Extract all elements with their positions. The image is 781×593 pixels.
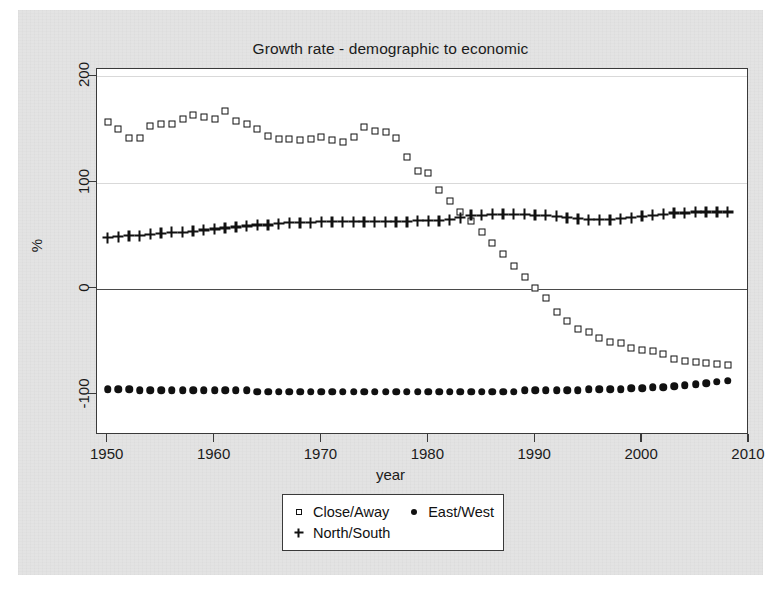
data-point: [243, 387, 251, 395]
data-point: [574, 387, 582, 395]
x-tick: [106, 434, 107, 442]
data-point: [660, 351, 667, 358]
plus-marker-icon: [292, 526, 305, 539]
data-point: [350, 133, 357, 140]
data-point: [508, 209, 519, 220]
gridline: [97, 76, 747, 77]
x-tick: [747, 434, 748, 442]
data-point: [220, 223, 231, 234]
data-point: [521, 387, 529, 395]
data-point: [457, 388, 465, 396]
data-point: [414, 167, 421, 174]
data-point: [263, 219, 274, 230]
data-point: [669, 208, 680, 219]
data-point: [423, 215, 434, 226]
data-point: [617, 386, 625, 394]
data-point: [692, 358, 699, 365]
legend-label: Close/Away: [313, 504, 389, 520]
data-point: [147, 387, 155, 395]
data-point: [190, 111, 197, 118]
legend-entry-east-west: East/West: [407, 504, 494, 520]
data-point: [222, 108, 229, 115]
open-square-marker-icon: [292, 505, 305, 518]
data-point: [254, 388, 262, 396]
data-point: [382, 388, 390, 396]
x-tick-label: 1950: [90, 445, 123, 462]
data-point: [360, 388, 368, 396]
x-tick-label: 1980: [411, 445, 444, 462]
data-point: [243, 121, 250, 128]
plot-area: [96, 68, 748, 434]
data-point: [327, 216, 338, 227]
data-point: [145, 229, 156, 240]
data-point: [113, 231, 124, 242]
figure: Growth rate - demographic to economic 20…: [0, 0, 781, 593]
data-point: [722, 207, 733, 218]
data-point: [605, 214, 616, 225]
data-point: [519, 209, 530, 220]
data-point: [230, 222, 241, 233]
data-point: [467, 388, 475, 396]
data-point: [585, 329, 592, 336]
data-point: [615, 213, 626, 224]
data-point: [264, 388, 272, 396]
data-point: [115, 126, 122, 133]
data-point: [425, 388, 433, 396]
data-point: [532, 284, 539, 291]
data-point: [649, 348, 656, 355]
data-point: [521, 273, 528, 280]
data-point: [564, 318, 571, 325]
data-point: [286, 388, 294, 396]
y-axis-label: %: [28, 239, 45, 252]
y-tick-label: 0: [75, 283, 92, 291]
data-point: [703, 359, 710, 366]
data-point: [724, 361, 731, 368]
data-point: [446, 197, 453, 204]
x-tick: [320, 434, 321, 442]
data-point: [478, 388, 486, 396]
filled-circle-marker-icon: [407, 505, 420, 518]
y-axis: 2001000-100: [0, 68, 96, 434]
chart-legend: Close/Away East/West North/South: [282, 494, 504, 551]
data-point: [393, 388, 401, 396]
data-point: [414, 388, 422, 396]
data-point: [134, 230, 145, 241]
data-point: [371, 388, 379, 396]
x-tick-label: 1960: [197, 445, 230, 462]
gridline: [97, 183, 747, 184]
data-point: [649, 384, 657, 392]
data-point: [254, 126, 261, 133]
data-point: [295, 217, 306, 228]
data-point: [166, 227, 177, 238]
data-point: [436, 186, 443, 193]
data-point: [692, 380, 700, 388]
data-point: [339, 388, 347, 396]
data-point: [104, 386, 112, 394]
data-point: [126, 134, 133, 141]
data-point: [284, 217, 295, 228]
data-point: [713, 360, 720, 367]
data-point: [232, 117, 239, 124]
data-point: [403, 154, 410, 161]
data-point: [316, 216, 327, 227]
data-point: [510, 388, 518, 396]
data-point: [401, 216, 412, 227]
data-point: [412, 215, 423, 226]
data-point: [200, 387, 208, 395]
data-point: [435, 388, 443, 396]
data-point: [724, 377, 732, 385]
data-point: [361, 124, 368, 131]
data-point: [296, 388, 304, 396]
data-point: [596, 386, 604, 394]
data-point: [628, 345, 635, 352]
data-point: [403, 388, 411, 396]
data-point: [626, 212, 637, 223]
data-point: [369, 216, 380, 227]
data-point: [498, 209, 509, 220]
data-point: [382, 128, 389, 135]
data-point: [318, 388, 326, 396]
data-point: [540, 210, 551, 221]
data-point: [222, 387, 230, 395]
data-point: [339, 139, 346, 146]
data-point: [681, 381, 689, 389]
